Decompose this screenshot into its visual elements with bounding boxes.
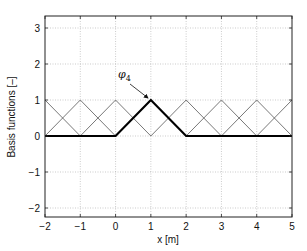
x-tick-label: 0 [113,221,119,232]
x-axis-label: x [m] [157,234,179,245]
x-tick-label: 2 [183,221,189,232]
y-tick-label: 2 [34,59,40,70]
y-tick-label: −1 [29,167,41,178]
x-tick-label: 1 [148,221,154,232]
x-tick-label: −2 [39,221,51,232]
x-tick-label: 3 [219,221,225,232]
x-tick-label: 5 [289,221,295,232]
x-tick-label: −1 [75,221,87,232]
y-tick-label: −2 [29,203,41,214]
basis-functions-chart: −2−1012345−2−10123 φ4 x [m] Basis functi… [0,0,307,251]
y-axis-label: Basis functions [–] [6,76,17,157]
x-tick-label: 4 [254,221,260,232]
y-tick-label: 1 [34,95,40,106]
y-tick-label: 0 [34,131,40,142]
y-tick-label: 3 [34,23,40,34]
